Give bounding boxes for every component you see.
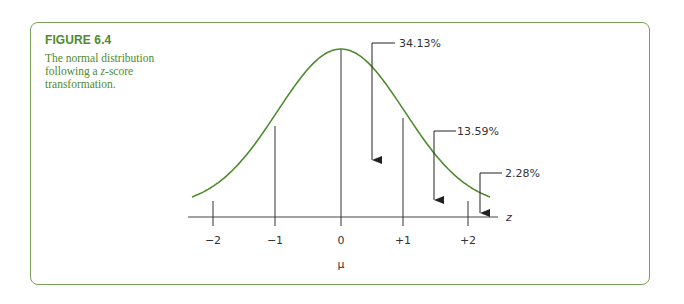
axis-label-z: z [505, 211, 512, 224]
tick-label-minus-2: −2 [205, 234, 221, 247]
normal-distribution-chart: 34.13% 13.59% 2.28% −2 −1 0 +1 +2 μ z [0, 0, 684, 304]
tick-label-minus-1: −1 [267, 234, 283, 247]
arrow-34-percent [372, 43, 395, 160]
tick-label-plus-2: +2 [460, 234, 476, 247]
mu-label: μ [338, 258, 345, 271]
label-34-percent: 34.13% [399, 37, 441, 50]
arrow-2-percent [480, 173, 502, 213]
tick-label-0: 0 [338, 234, 345, 247]
label-13-percent: 13.59% [457, 125, 499, 138]
label-2-percent: 2.28% [505, 167, 540, 180]
tick-label-plus-1: +1 [395, 234, 411, 247]
